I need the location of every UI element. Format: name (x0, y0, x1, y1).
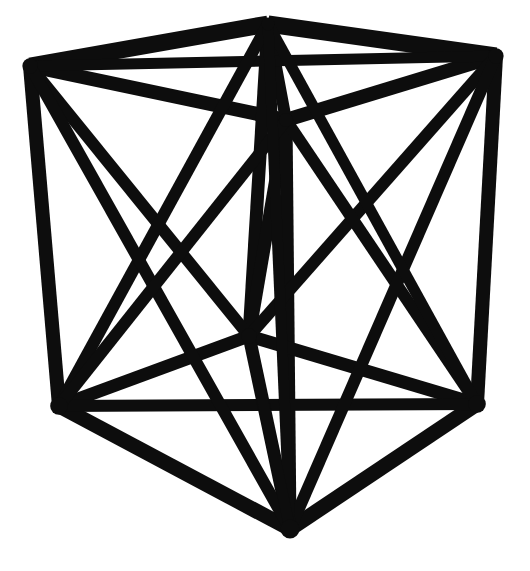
vertex-bottom-back (241, 328, 256, 343)
vertex-bottom-front (281, 520, 300, 539)
vertex-top-front-left (22, 58, 37, 73)
vertex-bottom-front-left (50, 397, 68, 415)
vertex-top-back-right (279, 113, 293, 127)
cube-wireframe-figure (0, 0, 530, 571)
vertex-top-back-left (262, 18, 275, 31)
vertex-top-front-right (488, 48, 503, 63)
vertex-bottom-front-right (468, 395, 486, 413)
artboard (0, 0, 530, 571)
